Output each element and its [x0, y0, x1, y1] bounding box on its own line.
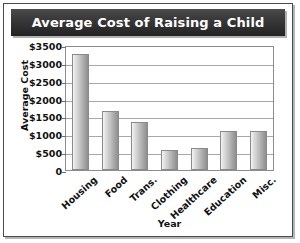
bar-slot: [214, 47, 244, 170]
y-axis-tick-label: $3000: [18, 58, 62, 69]
y-axis-tick-label: 0: [18, 166, 62, 177]
page-title: Average Cost of Raising a Child: [11, 9, 285, 36]
plot-area: [65, 46, 274, 171]
bar-clothing: [161, 150, 178, 170]
y-axis-tick-label: $1500: [18, 112, 62, 123]
chart-title-bar: Average Cost of Raising a Child: [11, 9, 285, 36]
y-axis-tick-labels: 0$500$1000$1500$2000$2500$3000$3500: [18, 46, 62, 171]
y-axis-tick-label: $2000: [18, 94, 62, 105]
y-axis-tick-label: $500: [18, 148, 62, 159]
x-axis-tick-labels: HousingFoodTrans.ClothingHealthcareEduca…: [65, 171, 274, 221]
bar-trans: [131, 122, 148, 170]
bar-series: [66, 47, 273, 170]
bar-slot: [243, 47, 273, 170]
y-axis-tick-label: $2500: [18, 76, 62, 87]
bar-food: [102, 111, 119, 170]
x-axis-tick-label: Misc.: [251, 174, 279, 201]
bar-slot: [66, 47, 96, 170]
bar-education: [220, 131, 237, 170]
bar-healthcare: [191, 148, 208, 170]
bar-slot: [96, 47, 126, 170]
y-axis-tick-label: $3500: [18, 41, 62, 52]
x-axis-tick-label: Housing: [59, 174, 99, 211]
x-axis-tick-label: Food: [102, 174, 129, 200]
bar-housing: [72, 54, 89, 170]
x-axis-title: Year: [65, 218, 274, 229]
y-axis-tick-label: $1000: [18, 130, 62, 141]
bar-slot: [155, 47, 185, 170]
bar-slot: [184, 47, 214, 170]
chart-plot-region: Average Cost 0$500$1000$1500$2000$2500$3…: [4, 38, 292, 236]
bar-slot: [125, 47, 155, 170]
bar-misc: [250, 131, 267, 170]
chart-figure: Average Cost of Raising a Child Average …: [3, 3, 293, 237]
